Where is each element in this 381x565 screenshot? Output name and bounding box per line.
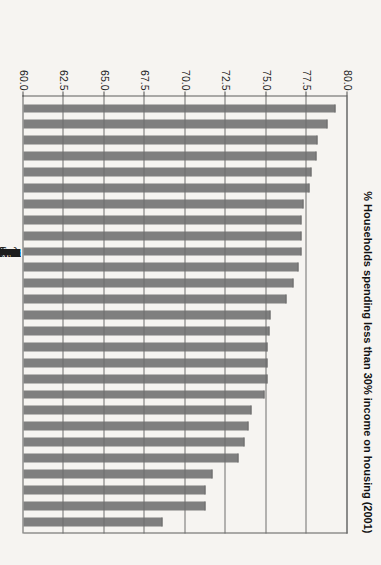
bar[interactable] [23,421,248,430]
value-axis-title: % Households spending less than 30% inco… [361,95,373,533]
axis-tick [63,91,64,96]
axis-tick [103,91,104,96]
axis-tick [144,91,145,96]
bar[interactable] [23,342,267,351]
gridline [306,96,307,533]
bar[interactable] [23,374,267,383]
bar[interactable] [23,437,244,446]
axis-tick-label: 80.0 [341,62,353,90]
axis-tick-label: 70.0 [179,62,191,90]
category-label-text: Vancouver [0,246,20,258]
axis-tick-label: 65.0 [98,62,110,90]
bar[interactable] [23,104,335,113]
axis-tick [346,91,347,96]
gridline [63,96,64,533]
gridline [225,96,226,533]
axis-tick-label: 60.0 [17,62,29,90]
bar[interactable] [23,231,301,240]
gridline [144,96,145,533]
axis-tick [265,91,266,96]
gridline [103,96,104,533]
bar[interactable] [23,167,311,176]
gridline [184,96,185,533]
bar[interactable] [23,326,269,335]
axis-tick-label: 67.5 [139,62,151,90]
bar[interactable] [23,135,317,144]
chart-canvas: % Households spending less than 30% inco… [0,0,381,565]
category-axis-labels: WinnipegReginaOttawa – GatineauMonctonCh… [0,95,22,533]
axis-tick-label: 77.5 [301,62,313,90]
axis-tick-label: 72.5 [220,62,232,90]
bar[interactable] [23,119,327,128]
axis-tick-label: 62.5 [58,62,70,90]
chart-stage: % Households spending less than 30% inco… [0,0,381,565]
bar[interactable] [23,215,301,224]
gridline [346,96,347,533]
axis-tick-label: 75.0 [260,62,272,90]
bar[interactable] [23,485,205,494]
bar[interactable] [23,199,303,208]
axis-tick [184,91,185,96]
bar[interactable] [23,262,298,271]
bar[interactable] [23,310,270,319]
bar[interactable] [23,405,251,414]
bar[interactable] [23,453,238,462]
bar[interactable] [23,517,162,526]
gridline [265,96,266,533]
bar[interactable] [23,358,267,367]
axis-tick [306,91,307,96]
bar[interactable] [23,501,205,510]
plot-area: 60.062.565.067.570.072.575.077.580.0 [22,95,347,533]
bar[interactable] [23,247,301,256]
bar[interactable] [23,151,316,160]
axis-tick [225,91,226,96]
